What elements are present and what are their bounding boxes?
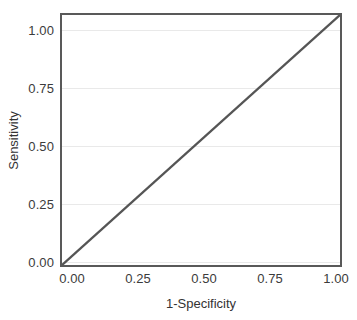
- x-tick-label: 1.00: [308, 271, 357, 286]
- plot-inner: [62, 15, 340, 265]
- x-tick-label: 0.00: [44, 271, 100, 286]
- plot-area: [60, 13, 342, 267]
- x-tick-label: 0.75: [242, 271, 298, 286]
- x-tick-label: 0.25: [110, 271, 166, 286]
- reference-diagonal-line: [62, 15, 340, 265]
- y-tick-label: 0.00: [6, 255, 54, 270]
- x-tick-label: 0.50: [176, 271, 232, 286]
- y-tick-label: 1.00: [6, 23, 54, 38]
- roc-chart: 1.00 0.75 0.50 0.25 0.00 0.00 0.25 0.50 …: [0, 0, 357, 320]
- x-axis-title: 1-Specificity: [60, 296, 342, 311]
- y-axis-title: Sensitivity: [6, 81, 21, 201]
